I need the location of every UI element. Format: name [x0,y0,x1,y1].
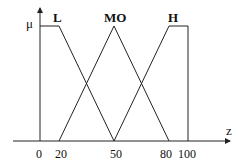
membership-diagram: μ z L MO H 0 20 50 80 100 [0,0,245,168]
set-MO-curve [59,26,169,141]
tick-label-100: 100 [178,147,196,161]
y-axis-label: μ [26,16,33,31]
tick-label-0: 0 [36,147,42,161]
set-label-H: H [168,10,178,25]
set-H-curve [114,26,188,141]
tick-label-20: 20 [55,147,67,161]
tick-label-80: 80 [160,147,172,161]
set-label-MO: MO [104,10,126,25]
tick-label-50: 50 [110,147,122,161]
x-axis-label: z [226,123,232,138]
set-L-curve [40,26,114,141]
set-label-L: L [53,10,62,25]
